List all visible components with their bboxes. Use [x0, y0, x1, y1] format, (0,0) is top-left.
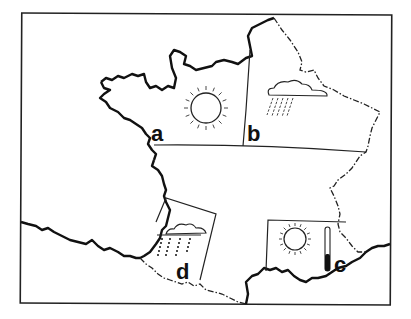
region-label-b: b: [247, 121, 260, 146]
region-label-d: d: [176, 259, 189, 284]
region-label-a: a: [151, 121, 164, 146]
coastline-atlantic: [140, 160, 170, 258]
border-east: [274, 18, 380, 252]
france-weather-map: a b c d: [0, 0, 411, 319]
thermometer-icon: [325, 227, 330, 271]
border-spain: [140, 258, 246, 304]
sun-icon: [184, 86, 228, 130]
rain-cloud-icon: [267, 80, 327, 117]
region-label-c: c: [334, 252, 346, 277]
coastline-spain: [21, 222, 140, 258]
sun-icon: [279, 223, 311, 255]
coastline-mediterranean: [246, 244, 390, 304]
coastline-brittany-west: [100, 82, 156, 160]
